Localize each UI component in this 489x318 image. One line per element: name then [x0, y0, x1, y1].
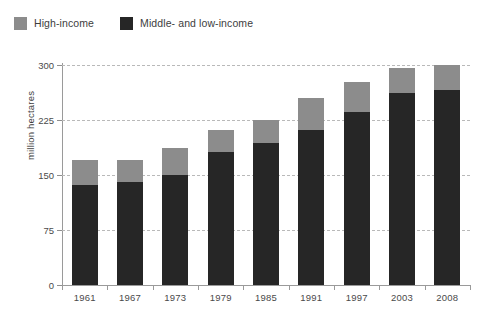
x-tick-mark-1973	[153, 285, 154, 290]
x-tick-mark-2008	[425, 285, 426, 290]
bar-segment-high-income	[253, 120, 279, 143]
x-tick-mark-1961	[62, 285, 63, 290]
y-tick-label-150: 150	[14, 170, 54, 181]
bar-segment-middle-and-low-income	[389, 93, 415, 285]
bar-segment-middle-and-low-income	[298, 130, 324, 285]
bar-segment-middle-and-low-income	[253, 143, 279, 285]
x-tick-mark-1985	[243, 285, 244, 290]
bar-segment-high-income	[298, 98, 324, 130]
y-tick-mark-300	[57, 65, 62, 66]
bar-segment-high-income	[434, 65, 460, 90]
bar-segment-middle-and-low-income	[162, 175, 188, 285]
x-tick-label-2008: 2008	[424, 292, 470, 303]
x-tick-label-2003: 2003	[379, 292, 425, 303]
y-tick-label-0: 0	[14, 280, 54, 291]
x-tick-label-1985: 1985	[243, 292, 289, 303]
gridline-300	[62, 65, 470, 66]
bar-segment-middle-and-low-income	[434, 90, 460, 285]
x-tick-label-1973: 1973	[152, 292, 198, 303]
x-tick-label-1967: 1967	[107, 292, 153, 303]
x-tick-mark-1967	[107, 285, 108, 290]
bar-group	[162, 148, 188, 285]
bar-group	[298, 98, 324, 285]
bar-segment-high-income	[208, 130, 234, 152]
y-tick-mark-150	[57, 175, 62, 176]
bar-segment-middle-and-low-income	[344, 112, 370, 285]
x-tick-mark-1997	[334, 285, 335, 290]
x-tick-label-1961: 1961	[62, 292, 108, 303]
bar-segment-middle-and-low-income	[117, 182, 143, 285]
gridline-0	[62, 285, 470, 286]
bar-segment-middle-and-low-income	[72, 185, 98, 285]
bar-group	[253, 120, 279, 285]
y-tick-label-75: 75	[14, 225, 54, 236]
bar-chart: million hectares 07515022530019611967197…	[0, 0, 489, 318]
x-tick-label-1979: 1979	[198, 292, 244, 303]
bar-group	[208, 130, 234, 285]
bar-segment-middle-and-low-income	[208, 152, 234, 285]
bar-group	[72, 160, 98, 285]
x-tick-label-1997: 1997	[334, 292, 380, 303]
y-tick-mark-75	[57, 230, 62, 231]
x-tick-mark-2003	[379, 285, 380, 290]
bar-segment-high-income	[389, 68, 415, 93]
y-axis-title: million hectares	[25, 66, 36, 186]
bar-group	[389, 68, 415, 285]
bar-segment-high-income	[344, 82, 370, 112]
bar-group	[434, 65, 460, 285]
x-tick-label-1991: 1991	[288, 292, 334, 303]
bar-segment-high-income	[162, 148, 188, 175]
y-tick-mark-225	[57, 120, 62, 121]
plot-area	[62, 65, 470, 285]
bar-group	[344, 82, 370, 285]
x-tick-mark-1991	[289, 285, 290, 290]
bar-group	[117, 160, 143, 285]
y-tick-label-225: 225	[14, 115, 54, 126]
bar-segment-high-income	[72, 160, 98, 185]
x-tick-mark-end	[470, 285, 471, 290]
x-tick-mark-1979	[198, 285, 199, 290]
bar-segment-high-income	[117, 160, 143, 183]
y-tick-label-300: 300	[14, 60, 54, 71]
